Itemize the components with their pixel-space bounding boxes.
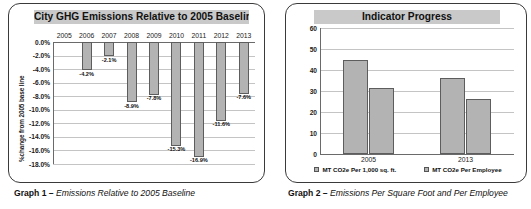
graph-2-x-tick: 2005	[320, 156, 417, 164]
graph-1-x-tick: 2005	[53, 32, 75, 40]
legend-swatch-icon	[424, 167, 429, 172]
graph-1-y-tick: -6.0%	[33, 79, 50, 86]
graph-1-plot-area	[53, 42, 255, 164]
graph-1-caption: Graph 1 – Emissions Relative to 2005 Bas…	[14, 188, 195, 198]
graph-1-bar	[104, 42, 114, 56]
graph-2-bar	[343, 60, 368, 154]
graph-1-gridline	[53, 137, 255, 138]
graph-1-x-tick: 2013	[233, 32, 255, 40]
graph-1-y-axis	[53, 42, 54, 164]
graph-2-legend: MT CO2e Per 1,000 sq. ft.MT CO2e Per Emp…	[302, 166, 514, 173]
graph-1-x-tick: 2009	[143, 32, 165, 40]
graph-1-bar-label: -15.3%	[165, 146, 187, 152]
graph-1-bar-label: -16.9%	[188, 157, 210, 163]
graph-1-panel: City GHG Emissions Relative to 2005 Base…	[8, 3, 265, 183]
graph-1-x-tick: 2008	[120, 32, 142, 40]
graph-1-caption-text: Emissions Relative to 2005 Baseline	[56, 188, 195, 198]
figure-pair: City GHG Emissions Relative to 2005 Base…	[0, 0, 531, 209]
graph-1-x-tick: 2011	[188, 32, 210, 40]
graph-1-x-tick: 2007	[98, 32, 120, 40]
graph-1-bar	[127, 42, 137, 102]
graph-1-x-tick: 2006	[75, 32, 97, 40]
graph-1-bar-label: -8.9%	[120, 103, 142, 109]
graph-2-y-tick: 40	[310, 67, 317, 74]
graph-1-bar-label: -11.6%	[210, 121, 232, 127]
graph-1-y-tick: -16.0%	[29, 147, 50, 154]
graph-2-y-tick: 10	[310, 130, 317, 137]
graph-1-x-tick: 2010	[165, 32, 187, 40]
graph-1-x-tick: 2012	[210, 32, 232, 40]
graph-1-y-tick: -14.0%	[29, 133, 50, 140]
graph-1-bar-label: -7.6%	[233, 94, 255, 100]
graph-2-y-tick: 30	[310, 88, 317, 95]
graph-2-x-tick: 2013	[417, 156, 514, 164]
graph-1-gridline	[53, 150, 255, 151]
graph-2-plot-area	[320, 28, 514, 154]
graph-2-bar	[440, 78, 465, 154]
graph-2-legend-item: MT CO2e Per 1,000 sq. ft.	[314, 166, 396, 173]
graph-1-bar	[149, 42, 159, 95]
graph-2-panel: Indicator Progress MT CO2e Per 1,000 sq.…	[285, 3, 527, 183]
graph-1-bar	[216, 42, 226, 121]
graph-1-gridline	[53, 164, 255, 165]
legend-swatch-icon	[314, 167, 319, 172]
graph-2-legend-label: MT CO2e Per Employee	[432, 166, 501, 173]
graph-1-y-tick: -8.0%	[33, 93, 50, 100]
graph-1-bar	[239, 42, 249, 94]
graph-2-y-tick: 50	[310, 46, 317, 53]
graph-1-bar	[194, 42, 204, 157]
graph-2-legend-label: MT CO2e Per 1,000 sq. ft.	[322, 166, 396, 173]
graph-1-bar	[82, 42, 92, 70]
graph-2-y-tick: 0	[313, 151, 317, 158]
graph-1-y-tick: -18.0%	[29, 161, 50, 168]
graph-2-y-axis	[320, 28, 321, 154]
graph-1-title: City GHG Emissions Relative to 2005 Base…	[34, 10, 249, 24]
graph-1-y-tick: -4.0%	[33, 66, 50, 73]
graph-1-y-tick: 0.0%	[35, 39, 50, 46]
graph-2-caption-prefix: Graph 2 –	[288, 188, 328, 198]
graph-2-y-tick: 20	[310, 109, 317, 116]
graph-2-bar	[466, 99, 491, 154]
graph-2-y-tick: 60	[310, 25, 317, 32]
graph-1-y-tick: -10.0%	[29, 106, 50, 113]
graph-2-gridline	[320, 28, 514, 29]
graph-2-bar	[369, 88, 394, 154]
graph-1-y-tick: -2.0%	[33, 52, 50, 59]
graph-1-y-axis-label: %change from 2005 base line	[18, 76, 25, 162]
graph-1-bar-label: -2.1%	[98, 57, 120, 63]
graph-2-caption: Graph 2 – Emissions Per Square Foot and …	[288, 188, 508, 198]
graph-2-legend-item: MT CO2e Per Employee	[424, 166, 501, 173]
graph-2-title: Indicator Progress	[314, 10, 500, 24]
graph-1-bar-label: -7.8%	[143, 95, 165, 101]
graph-1-caption-prefix: Graph 1 –	[14, 188, 54, 198]
graph-1-y-tick: -12.0%	[29, 120, 50, 127]
graph-2-gridline	[320, 49, 514, 50]
graph-1-bar	[171, 42, 181, 146]
graph-1-bar-label: -4.2%	[75, 71, 97, 77]
graph-2-caption-text: Emissions Per Square Foot and Per Employ…	[330, 188, 508, 198]
